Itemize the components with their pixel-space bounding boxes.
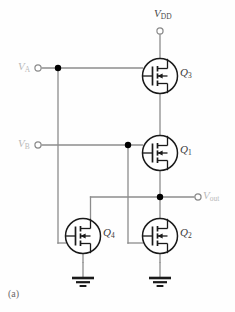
vout-terminal[interactable] <box>195 194 201 200</box>
output-label: Vout <box>203 189 219 203</box>
va-terminal[interactable] <box>35 65 41 71</box>
junction-dot-vb-branch <box>125 142 131 148</box>
figure-canvas: VDD VA VB Vout Q3 Q1 Q4 Q2 (a) <box>0 0 235 312</box>
device-label-q3: Q3 <box>180 66 192 80</box>
device-label-q2: Q2 <box>180 226 192 240</box>
vb-terminal[interactable] <box>35 142 41 148</box>
circuit-schematic <box>0 0 235 312</box>
ground-symbol-q4 <box>72 262 94 286</box>
transistor-q1[interactable] <box>143 136 178 171</box>
input-b-label: VB <box>18 137 30 151</box>
device-label-q1: Q1 <box>180 143 192 157</box>
device-label-q4: Q4 <box>103 226 115 240</box>
ground-symbol-q2 <box>149 262 171 286</box>
input-a-label: VA <box>18 60 30 74</box>
transistor-q4[interactable] <box>66 219 101 254</box>
transistor-q3[interactable] <box>143 59 178 94</box>
junction-dot-va-branch <box>55 65 61 71</box>
figure-caption: (a) <box>8 288 19 299</box>
vdd-terminal[interactable] <box>157 28 163 34</box>
transistor-q2[interactable] <box>143 219 178 254</box>
junction-dot-output-node <box>157 194 163 200</box>
vdd-label: VDD <box>154 7 172 21</box>
